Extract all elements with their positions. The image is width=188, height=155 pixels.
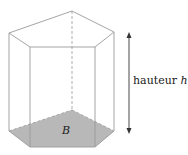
arrow-up-icon (127, 32, 132, 38)
height-label-text: hauteur (133, 74, 177, 87)
arrow-down-icon (127, 128, 132, 134)
height-variable: h (181, 74, 188, 87)
height-label: hauteur h (133, 74, 187, 87)
base-label: B (62, 124, 70, 137)
top-face (9, 11, 114, 47)
